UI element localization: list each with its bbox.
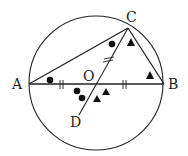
- angle-marker-circle-a: [47, 77, 54, 84]
- label-a: A: [11, 76, 23, 92]
- segment-ac: [29, 28, 128, 84]
- tick-marks-oc: [103, 57, 114, 62]
- angle-marker-circle-c: [109, 41, 116, 48]
- angle-marker-triangle-c: [127, 38, 135, 46]
- diagram-svg: A B C D O: [0, 0, 188, 156]
- angle-marker-triangle-o2: [93, 95, 101, 102]
- angle-marker-circle-o2: [79, 95, 86, 102]
- angle-marker-circle-o1: [74, 88, 81, 95]
- segment-bc: [128, 28, 164, 84]
- angle-marker-triangle-b: [146, 71, 154, 79]
- label-b: B: [168, 76, 178, 92]
- geometry-diagram: A B C D O: [0, 0, 188, 156]
- label-o: O: [83, 68, 94, 84]
- angle-marker-triangle-o1: [102, 88, 110, 95]
- label-c: C: [126, 9, 137, 25]
- label-d: D: [70, 114, 81, 130]
